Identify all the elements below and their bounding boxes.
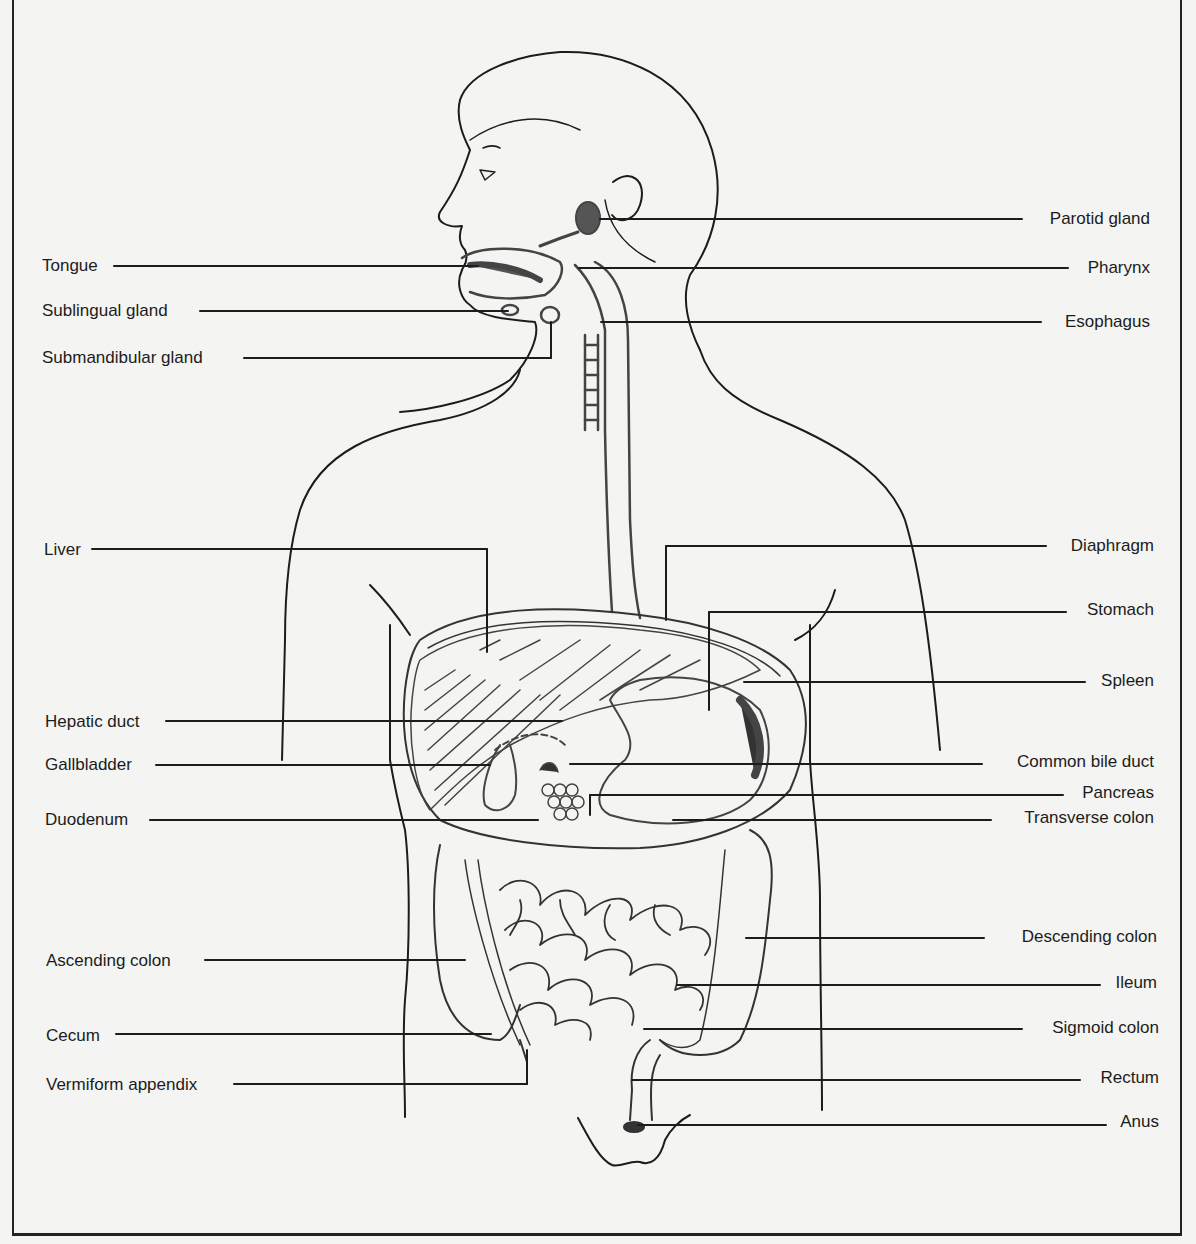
stomach-shape — [599, 677, 768, 823]
torso-outline — [282, 350, 940, 1166]
liver-shape — [411, 625, 760, 810]
label-gallbladder: Gallbladder — [45, 755, 132, 775]
label-sigmoid-colon: Sigmoid colon — [1052, 1018, 1159, 1038]
gallbladder-shape — [484, 734, 565, 810]
label-rectum: Rectum — [1100, 1068, 1159, 1088]
label-hepatic-duct: Hepatic duct — [45, 712, 140, 732]
small-intestine — [500, 881, 710, 1040]
esophagus-tube — [575, 262, 640, 618]
parotid-gland-shape — [576, 202, 600, 234]
label-descending-colon: Descending colon — [1022, 927, 1157, 947]
label-spleen: Spleen — [1101, 671, 1154, 691]
label-cecum: Cecum — [46, 1026, 100, 1046]
label-ascending-colon: Ascending colon — [46, 951, 171, 971]
digestive-system-illustration — [0, 0, 1196, 1244]
label-ileum: Ileum — [1115, 973, 1157, 993]
pancreas-shape — [540, 763, 584, 820]
label-esophagus: Esophagus — [1065, 312, 1150, 332]
label-parotid-gland: Parotid gland — [1050, 209, 1150, 229]
label-transverse-colon: Transverse colon — [1024, 808, 1154, 828]
large-intestine — [434, 830, 772, 1132]
label-sublingual-gland: Sublingual gland — [42, 301, 168, 321]
label-pharynx: Pharynx — [1088, 258, 1150, 278]
label-submandibular-gland: Submandibular gland — [42, 348, 203, 368]
label-vermiform-appendix: Vermiform appendix — [46, 1075, 197, 1095]
label-liver: Liver — [44, 540, 81, 560]
label-stomach: Stomach — [1087, 600, 1154, 620]
label-tongue: Tongue — [42, 256, 98, 276]
label-anus: Anus — [1120, 1112, 1159, 1132]
label-diaphragm: Diaphragm — [1071, 536, 1154, 556]
label-common-bile-duct: Common bile duct — [1017, 752, 1154, 772]
label-duodenum: Duodenum — [45, 810, 128, 830]
label-pancreas: Pancreas — [1082, 783, 1154, 803]
